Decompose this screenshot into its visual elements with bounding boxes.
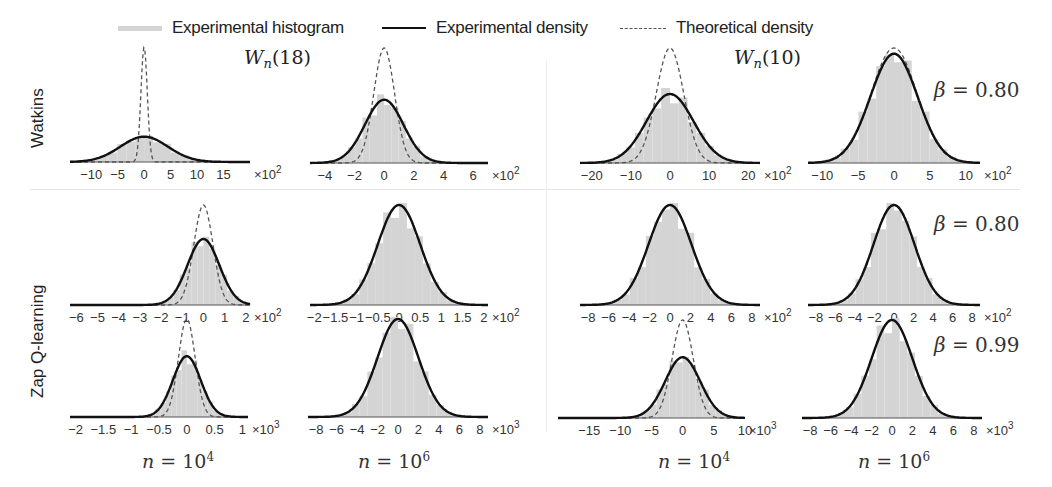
tick-label: −6 xyxy=(828,310,843,325)
histogram-bar xyxy=(126,142,135,162)
tick-label: 20 xyxy=(741,168,755,183)
tick-label: 10 xyxy=(702,168,716,183)
axis-multiplier: ×102 xyxy=(254,307,282,325)
tick-label: 6 xyxy=(950,423,957,438)
histogram-bar xyxy=(902,221,910,305)
tick-label: 10 xyxy=(190,167,204,182)
histogram-bar xyxy=(886,203,894,305)
tick-label: 0.5 xyxy=(411,310,429,325)
tick-label: −15 xyxy=(578,423,600,438)
tick-label: 2 xyxy=(410,168,417,183)
tick-label: 6 xyxy=(470,168,477,183)
histogram-bar xyxy=(375,358,383,417)
tick-label: 4 xyxy=(440,168,447,183)
tick-label: −8 xyxy=(808,310,823,325)
tick-label: 1.5 xyxy=(454,310,472,325)
tick-label: −6 xyxy=(823,423,838,438)
tick-label: 0 xyxy=(679,423,686,438)
axis-multiplier: ×102 xyxy=(254,164,282,182)
histogram-bar xyxy=(398,329,406,417)
histogram-bar xyxy=(391,218,399,305)
histogram-bar xyxy=(894,62,903,163)
tick-label: 0 xyxy=(890,168,897,183)
tick-label: −3 xyxy=(132,310,147,325)
histogram-bar xyxy=(638,267,646,305)
tick-label: 2 xyxy=(909,423,916,438)
tick-label: −4 xyxy=(844,423,859,438)
tick-label: −0.5 xyxy=(146,422,172,437)
tick-label: 6 xyxy=(728,310,735,325)
axis-multiplier: ×103 xyxy=(986,420,1014,438)
density-panel: −8−6−4−202468×103 xyxy=(802,318,1014,438)
histogram-bar xyxy=(153,142,162,162)
tick-label: 8 xyxy=(748,310,755,325)
tick-label: 6 xyxy=(949,310,956,325)
tick-label: −6 xyxy=(601,310,616,325)
density-panel: −2−1.5−1−0.500.51×103 xyxy=(68,319,280,437)
tick-label: 8 xyxy=(970,423,977,438)
tick-label: 5 xyxy=(710,423,717,438)
histogram-bar xyxy=(654,222,662,305)
tick-label: −2 xyxy=(307,310,322,325)
histogram-bar xyxy=(879,229,887,305)
tick-label: −10 xyxy=(609,423,631,438)
tick-label: −6 xyxy=(69,310,84,325)
tick-label: −2 xyxy=(642,310,657,325)
histogram-bar xyxy=(867,99,876,163)
histogram-bar xyxy=(670,103,679,163)
histogram-bar xyxy=(176,370,181,417)
histogram-bar xyxy=(370,115,377,163)
tick-label: −0.5 xyxy=(365,310,391,325)
density-panel: −8−6−4−202468×102 xyxy=(808,203,1012,325)
tick-label: −1 xyxy=(124,422,139,437)
density-panel: −2−1.5−1−0.500.511.52×102 xyxy=(307,203,520,325)
axis-multiplier: ×102 xyxy=(984,307,1012,325)
histogram-bar xyxy=(661,88,670,163)
axis-multiplier: ×103 xyxy=(749,420,777,438)
density-panel: −8−6−4−202468×102 xyxy=(580,203,792,325)
histogram-bar xyxy=(662,209,670,305)
histogram-bar xyxy=(399,203,407,305)
density-panel: −20−1001020×102 xyxy=(580,48,792,183)
tick-label: 2 xyxy=(910,310,917,325)
tick-label: 2 xyxy=(415,422,422,437)
histogram-bar xyxy=(209,249,215,305)
histogram-bar xyxy=(894,211,902,305)
tick-label: 1 xyxy=(438,310,445,325)
density-panel: −4−20246×102 xyxy=(310,48,520,183)
histogram-bar xyxy=(683,357,690,418)
tick-label: 4 xyxy=(707,310,714,325)
experimental-density-curve xyxy=(70,356,248,417)
histogram-bar xyxy=(652,108,661,163)
histogram-bar xyxy=(678,229,686,305)
tick-label: −5 xyxy=(851,168,866,183)
tick-label: −4 xyxy=(847,310,862,325)
tick-label: 10 xyxy=(958,168,972,183)
histogram-bar xyxy=(384,105,391,163)
histogram-bar xyxy=(676,362,683,418)
tick-label: 1 xyxy=(221,310,228,325)
histogram-bar xyxy=(694,267,702,305)
tick-label: −2 xyxy=(347,168,362,183)
density-panel: −10−50510×102 xyxy=(808,48,1012,183)
tick-label: 0 xyxy=(381,168,388,183)
tick-label: −4 xyxy=(317,168,332,183)
tick-label: 0.5 xyxy=(206,422,224,437)
theoretical-density-curve xyxy=(70,319,248,417)
tick-label: −8 xyxy=(803,423,818,438)
axis-multiplier: ×102 xyxy=(984,165,1012,183)
tick-label: 1 xyxy=(239,422,246,437)
histogram-bar xyxy=(869,359,877,418)
tick-label: −4 xyxy=(111,310,126,325)
axis-multiplier: ×102 xyxy=(492,307,520,325)
histogram-bar xyxy=(885,54,894,163)
tick-label: 0 xyxy=(666,168,673,183)
tick-label: −2 xyxy=(370,422,385,437)
tick-label: 5 xyxy=(926,168,933,183)
histogram-bar xyxy=(670,203,678,305)
tick-label: −2 xyxy=(864,423,879,438)
density-panel: −15−10−50510×103 xyxy=(558,320,777,438)
axis-multiplier: ×103 xyxy=(492,419,520,437)
tick-label: −2 xyxy=(867,310,882,325)
tick-label: 8 xyxy=(476,422,483,437)
